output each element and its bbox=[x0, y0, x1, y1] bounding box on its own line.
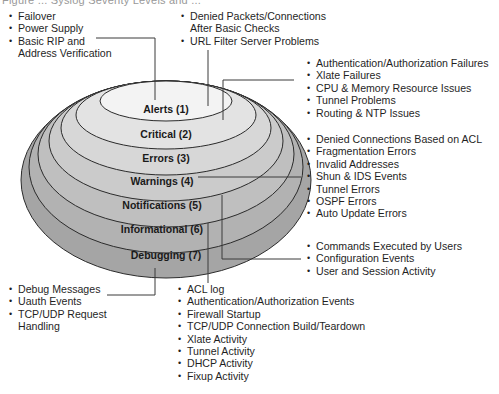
list-item: Fixup Activity bbox=[178, 370, 365, 382]
level-label-debugging: Debugging (7) bbox=[131, 249, 202, 261]
list-item: Failover bbox=[9, 10, 112, 22]
list-item: Debug Messages bbox=[9, 283, 107, 295]
list-item: URL Filter Server Problems bbox=[181, 35, 326, 47]
annotation-alerts-top: Denied Packets/Connections After Basic C… bbox=[181, 10, 326, 47]
list-item: Fragmentation Errors bbox=[307, 145, 482, 157]
list-item: Authentication/Authorization Failures bbox=[307, 57, 489, 69]
annotation-critical: Authentication/Authorization Failures Xl… bbox=[307, 57, 489, 119]
list-item: Denied Packets/Connections bbox=[181, 10, 326, 22]
level-label-critical: Critical (2) bbox=[140, 128, 191, 140]
list-item: Uauth Events bbox=[9, 295, 107, 307]
list-item: Tunnel Problems bbox=[307, 94, 489, 106]
level-label-errors: Errors (3) bbox=[142, 152, 189, 164]
level-ring-alerts bbox=[100, 81, 232, 121]
list-item: Routing & NTP Issues bbox=[307, 107, 489, 119]
list-item: Tunnel Activity bbox=[178, 345, 365, 357]
list-item: TCP/UDP Connection Build/Teardown bbox=[178, 320, 365, 332]
list-item: DHCP Activity bbox=[178, 357, 365, 369]
list-item: Xlate Activity bbox=[178, 333, 365, 345]
annotation-informational: ACL log Authentication/Authorization Eve… bbox=[178, 283, 365, 382]
list-item: Xlate Failures bbox=[307, 69, 489, 81]
level-label-informational: Informational (6) bbox=[121, 223, 203, 235]
list-item-continuation: After Basic Checks bbox=[181, 22, 326, 34]
annotation-alerts-left: Failover Power Supply Basic RIP and Addr… bbox=[9, 10, 112, 60]
list-item: Basic RIP and bbox=[9, 35, 112, 47]
list-item: Tunnel Errors bbox=[307, 183, 482, 195]
annotation-notifications: Commands Executed by Users Configuration… bbox=[307, 240, 462, 277]
list-item: Configuration Events bbox=[307, 252, 462, 264]
list-item: Firewall Startup bbox=[178, 308, 365, 320]
list-item: Power Supply bbox=[9, 22, 112, 34]
list-item-continuation: Handling bbox=[9, 320, 107, 332]
list-item: CPU & Memory Resource Issues bbox=[307, 82, 489, 94]
level-label-notifications: Notifications (5) bbox=[122, 199, 201, 211]
list-item-continuation: Address Verification bbox=[9, 47, 112, 59]
list-item: User and Session Activity bbox=[307, 265, 462, 277]
annotation-debugging: Debug Messages Uauth Events TCP/UDP Requ… bbox=[9, 283, 107, 333]
list-item: TCP/UDP Request bbox=[9, 308, 107, 320]
level-label-warnings: Warnings (4) bbox=[130, 175, 193, 187]
list-item: OSPF Errors bbox=[307, 195, 482, 207]
list-item: Shun & IDS Events bbox=[307, 170, 482, 182]
level-label-alerts: Alerts (1) bbox=[143, 103, 189, 115]
list-item: Commands Executed by Users bbox=[307, 240, 462, 252]
list-item: Invalid Addresses bbox=[307, 158, 482, 170]
annotation-warnings: Denied Connections Based on ACL Fragment… bbox=[307, 133, 482, 220]
list-item: Auto Update Errors bbox=[307, 207, 482, 219]
list-item: Authentication/Authorization Events bbox=[178, 295, 365, 307]
list-item: ACL log bbox=[178, 283, 365, 295]
list-item: Denied Connections Based on ACL bbox=[307, 133, 482, 145]
